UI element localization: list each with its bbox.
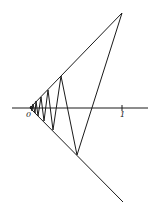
diagram-canvas bbox=[0, 0, 157, 207]
zigzag-path bbox=[30, 13, 122, 155]
upper-ray bbox=[30, 13, 122, 108]
origin-label: 0 bbox=[26, 111, 31, 119]
one-label: 1 bbox=[120, 111, 125, 119]
